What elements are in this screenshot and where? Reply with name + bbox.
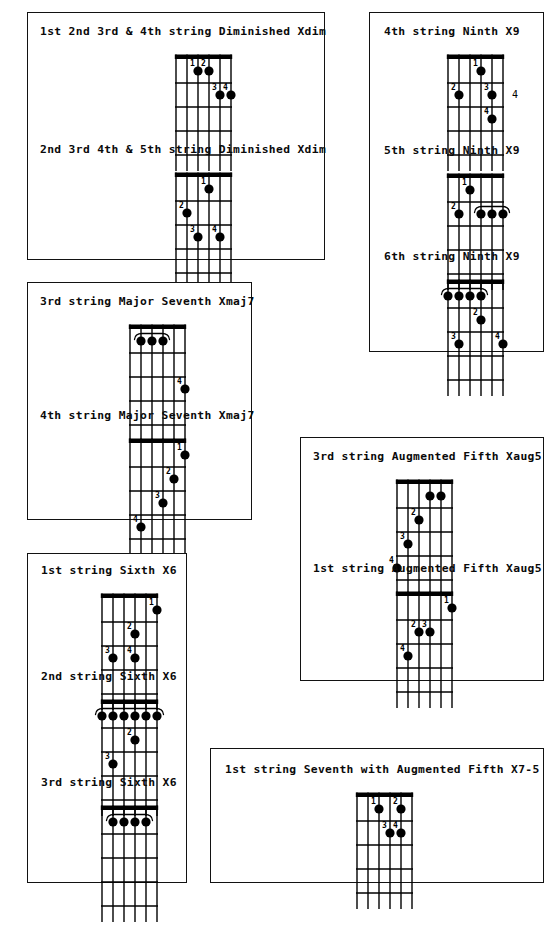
finger-position: 1 [201, 177, 214, 193]
finger-dot [498, 209, 507, 218]
finger-dot [119, 817, 128, 826]
panel-sixth: 1st string Sixth X612342nd string Sixth … [27, 553, 187, 883]
finger-number-label: 2 [393, 797, 398, 806]
finger-position: 1 [149, 598, 162, 614]
chord-title: 1st 2nd 3rd & 4th string Diminished Xdim [40, 25, 326, 38]
finger-position: 2 [411, 508, 424, 524]
finger-dot [119, 711, 128, 720]
panel-diminished: 1st 2nd 3rd & 4th string Diminished Xdim… [27, 12, 325, 260]
finger-number-label: 3 [190, 225, 195, 234]
nut [101, 700, 158, 705]
nut [447, 174, 504, 179]
finger-position: 4 [133, 515, 146, 531]
finger-position: 3 [190, 225, 203, 241]
finger-number-label: 3 [105, 646, 110, 655]
chord-title: 1st string Augmented Fifth Xaug5 [313, 562, 542, 575]
finger-position: 2 [451, 83, 464, 99]
finger-position: 3 [105, 752, 118, 768]
nut [356, 793, 413, 798]
finger-position: 2 [451, 202, 464, 218]
finger-dot [141, 711, 150, 720]
finger-number-label: 3 [484, 83, 489, 92]
finger-number-label: 2 [179, 201, 184, 210]
finger-number-label: 3 [382, 821, 387, 830]
finger-number-label: 3 [400, 532, 405, 541]
finger-dot [487, 209, 496, 218]
chord-title: 3rd string Major Seventh Xmaj7 [40, 295, 255, 308]
finger-number-label: 1 [201, 177, 206, 186]
panel-ninth: 4th string Ninth X9123445th string Ninth… [369, 12, 544, 352]
finger-number-label: 2 [411, 620, 416, 629]
chord-title: 1st string Seventh with Augmented Fifth … [225, 763, 540, 776]
chord-title: 6th string Ninth X9 [384, 250, 520, 263]
finger-number-label: 4 [393, 821, 398, 830]
finger-number-label: 3 [212, 83, 217, 92]
fretboard-diagram: 1234 [381, 584, 478, 736]
chord-ninth-6th: 234 [432, 272, 529, 424]
chord-aug5-1st: 1234 [381, 584, 478, 736]
finger-position: 3 [484, 83, 497, 99]
finger-dot [476, 209, 485, 218]
finger-position: 1 [473, 59, 486, 75]
finger-number-label: 3 [155, 491, 160, 500]
finger-position: 4 [223, 83, 236, 99]
finger-number-label: 2 [201, 59, 206, 68]
finger-position: 4 [495, 332, 508, 348]
fretboard-diagram [86, 798, 183, 926]
chord-title: 3rd string Augmented Fifth Xaug5 [313, 450, 542, 463]
finger-number-label: 1 [371, 797, 376, 806]
finger-number-label: 4 [484, 107, 489, 116]
finger-number-label: 2 [451, 202, 456, 211]
panel-major-seventh: 3rd string Major Seventh Xmaj744th strin… [27, 282, 252, 520]
finger-position: 2 [127, 728, 140, 744]
finger-dot [158, 336, 167, 345]
finger-position: 2 [179, 201, 192, 217]
finger-number-label: 2 [127, 728, 132, 737]
finger-position: 3 [155, 491, 168, 507]
fretboard-diagram: 234 [432, 272, 529, 424]
panel-augmented-fifth: 3rd string Augmented Fifth Xaug52341st s… [300, 437, 544, 681]
finger-dot [465, 291, 474, 300]
finger-position: 2 [201, 59, 214, 75]
finger-number-label: 3 [105, 752, 110, 761]
finger-dot [136, 336, 145, 345]
fret-position-label: 4 [512, 89, 518, 100]
nut [396, 592, 453, 597]
chord-title: 5th string Ninth X9 [384, 144, 520, 157]
finger-position: 2 [166, 467, 179, 483]
finger-dot [443, 291, 452, 300]
finger-position: 1 [177, 443, 190, 459]
finger-dot [147, 336, 156, 345]
nut [175, 55, 232, 60]
finger-number-label: 2 [411, 508, 416, 517]
finger-number-label: 2 [473, 308, 478, 317]
nut [129, 439, 186, 444]
finger-position: 3 [400, 532, 413, 548]
finger-dot [130, 817, 139, 826]
nut [396, 480, 453, 485]
finger-number-label: 1 [149, 598, 154, 607]
nut [101, 806, 158, 811]
finger-position: 3 [451, 332, 464, 348]
finger-dot [108, 817, 117, 826]
finger-position: 4 [127, 646, 140, 662]
finger-position: 4 [484, 107, 497, 123]
finger-position: 4 [400, 644, 413, 660]
finger-dot [436, 491, 445, 500]
finger-number-label: 4 [400, 644, 405, 653]
chord-title: 4th string Ninth X9 [384, 25, 520, 38]
chord-title: 4th string Major Seventh Xmaj7 [40, 409, 255, 422]
finger-dot [108, 711, 117, 720]
finger-number-label: 4 [133, 515, 138, 524]
chord-title: 2nd 3rd 4th & 5th string Diminished Xdim [40, 143, 326, 156]
finger-dot [454, 291, 463, 300]
nut [129, 325, 186, 330]
finger-position [436, 491, 445, 500]
finger-dot [476, 291, 485, 300]
finger-position: 1 [444, 596, 457, 612]
finger-position: 1 [371, 797, 384, 813]
chord-title: 1st string Sixth X6 [41, 564, 177, 577]
finger-number-label: 1 [473, 59, 478, 68]
finger-position: 1 [462, 178, 475, 194]
